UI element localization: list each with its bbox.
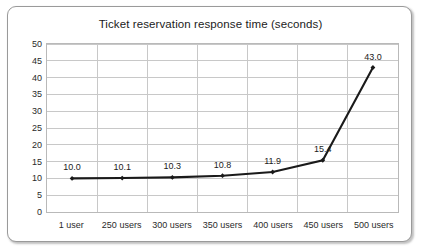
y-axis-tick: 10 [10, 173, 42, 183]
y-axis-tick-labels: 50454035302520151050 [8, 43, 42, 213]
x-axis-tick: 400 users [248, 217, 298, 237]
grid-lines [47, 44, 398, 212]
y-axis-tick: 30 [10, 106, 42, 116]
y-axis-tick: 15 [10, 157, 42, 167]
y-axis-tick: 20 [10, 140, 42, 150]
y-axis-tick: 0 [10, 207, 42, 217]
y-axis-tick: 25 [10, 123, 42, 133]
x-axis-tick: 250 users [96, 217, 146, 237]
x-axis-tick-labels: 1 user250 users300 users350 users400 use… [46, 217, 399, 237]
y-axis-tick: 45 [10, 56, 42, 66]
chart-title: Ticket reservation response time (second… [8, 18, 413, 30]
y-axis-tick: 40 [10, 73, 42, 83]
x-axis-tick: 350 users [197, 217, 247, 237]
y-axis-tick: 5 [10, 190, 42, 200]
y-axis-tick: 35 [10, 89, 42, 99]
x-axis-tick: 450 users [298, 217, 348, 237]
data-point-markers [70, 65, 376, 181]
x-axis-tick: 300 users [147, 217, 197, 237]
plot-area [46, 43, 399, 213]
y-axis-tick: 50 [10, 39, 42, 49]
line-chart-plot [47, 44, 398, 212]
x-axis-tick: 500 users [349, 217, 399, 237]
x-axis-tick: 1 user [46, 217, 96, 237]
chart-frame: Ticket reservation response time (second… [7, 6, 412, 242]
